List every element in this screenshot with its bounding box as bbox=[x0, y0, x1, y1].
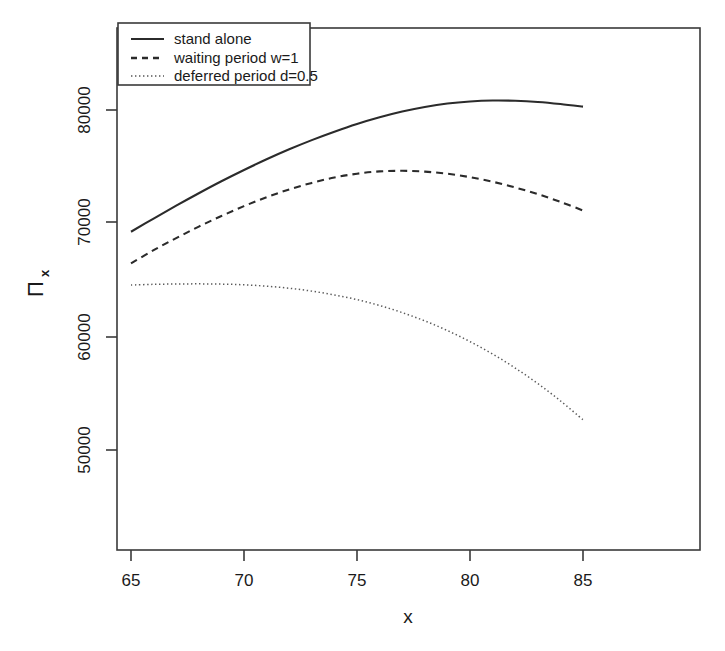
x-axis-tick-labels: 65 70 75 80 85 bbox=[122, 571, 593, 590]
series-line-waiting-period bbox=[131, 171, 583, 264]
x-axis-title: x bbox=[403, 606, 413, 627]
legend-item-label: deferred period d=0.5 bbox=[174, 67, 318, 84]
y-tick-label: 70000 bbox=[75, 198, 94, 245]
y-tick-label: 50000 bbox=[75, 426, 94, 473]
y-axis-title-symbol: Π bbox=[23, 281, 48, 297]
legend-item-label: stand alone bbox=[174, 30, 252, 47]
legend-item-label: waiting period w=1 bbox=[173, 49, 299, 66]
x-tick-label: 70 bbox=[235, 571, 254, 590]
plot-frame bbox=[117, 28, 700, 550]
y-tick-label: 60000 bbox=[75, 313, 94, 360]
chart-figure: 65 70 75 80 85 x 80000 70000 60000 50000… bbox=[0, 0, 725, 651]
series-line-deferred-period bbox=[131, 284, 583, 420]
x-tick-label: 85 bbox=[574, 571, 593, 590]
y-tick-label: 80000 bbox=[75, 86, 94, 133]
y-axis-tick-labels: 80000 70000 60000 50000 bbox=[75, 86, 94, 473]
y-axis-title: Π x bbox=[23, 269, 52, 297]
x-tick-label: 65 bbox=[122, 571, 141, 590]
y-axis-title-subscript: x bbox=[37, 269, 52, 277]
legend: stand alone waiting period w=1 deferred … bbox=[118, 23, 318, 85]
y-axis-ticks bbox=[106, 110, 117, 450]
x-tick-label: 80 bbox=[461, 571, 480, 590]
x-axis-ticks bbox=[131, 550, 583, 561]
series-line-stand-alone bbox=[131, 101, 583, 232]
series-group bbox=[131, 101, 583, 420]
line-chart-svg: 65 70 75 80 85 x 80000 70000 60000 50000… bbox=[0, 0, 725, 651]
x-tick-label: 75 bbox=[348, 571, 367, 590]
